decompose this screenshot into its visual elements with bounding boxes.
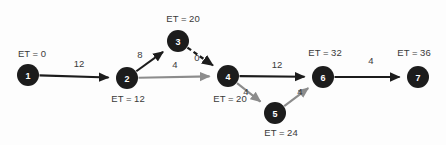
edge-weight-label-3-4: 0 <box>194 52 199 63</box>
edge-3-to-4 <box>187 48 212 66</box>
node-circle-2[interactable] <box>116 67 138 89</box>
earliest-time-label-1: ET = 0 <box>18 48 46 59</box>
earliest-time-label-3: ET = 20 <box>166 13 199 24</box>
earliest-time-label-2: ET = 12 <box>111 93 144 104</box>
earliest-time-label-5: ET = 24 <box>264 127 297 138</box>
network-diagram-canvas: 12804124441ET = 02ET = 123ET = 204ET = 2… <box>0 0 446 145</box>
edge-weight-label-4-6: 12 <box>272 59 283 70</box>
node-circle-6[interactable] <box>312 66 334 88</box>
edge-weight-label-2-3: 8 <box>137 49 142 60</box>
earliest-time-label-6: ET = 32 <box>308 47 341 58</box>
edge-weight-label-6-7: 4 <box>368 55 373 66</box>
edge-2-to-4 <box>138 76 209 77</box>
network-graph-svg <box>0 0 446 145</box>
node-circle-5[interactable] <box>264 102 286 124</box>
edge-weight-label-1-2: 12 <box>74 58 85 69</box>
node-circle-3[interactable] <box>167 30 189 52</box>
edge-weight-label-2-4: 4 <box>172 59 177 70</box>
earliest-time-label-4: ET = 20 <box>213 93 246 104</box>
node-circle-1[interactable] <box>17 64 39 86</box>
node-circle-7[interactable] <box>407 66 429 88</box>
edge-5-to-6 <box>284 88 308 106</box>
edge-4-to-6 <box>239 76 304 77</box>
edge-1-to-2 <box>39 75 108 77</box>
earliest-time-label-7: ET = 36 <box>397 47 430 58</box>
edge-weight-label-5-6: 4 <box>297 86 302 97</box>
node-circle-4[interactable] <box>217 65 239 87</box>
